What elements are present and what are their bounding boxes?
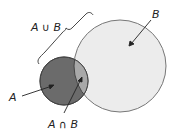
venn-diagram: A ∪ B B A A ∩ B — [0, 0, 175, 138]
union-label: A ∪ B — [30, 21, 61, 34]
set-b-circle — [74, 20, 166, 112]
set-b-label: B — [152, 8, 160, 21]
set-a-label: A — [8, 91, 17, 104]
intersection-label: A ∩ B — [47, 118, 78, 131]
